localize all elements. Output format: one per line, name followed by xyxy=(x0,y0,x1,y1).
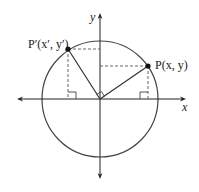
rotation-diagram: P′(x′, y′) P(x, y) y x xyxy=(0,0,199,192)
label-y-axis: y xyxy=(89,10,96,24)
label-p: P(x, y) xyxy=(155,58,188,72)
point-p xyxy=(145,63,150,68)
radius-op-prime xyxy=(68,49,100,99)
radius-op xyxy=(100,66,148,99)
right-angle-marks xyxy=(68,92,148,99)
label-p-prime: P′(x′, y′) xyxy=(28,37,69,51)
label-x-axis: x xyxy=(181,100,188,114)
